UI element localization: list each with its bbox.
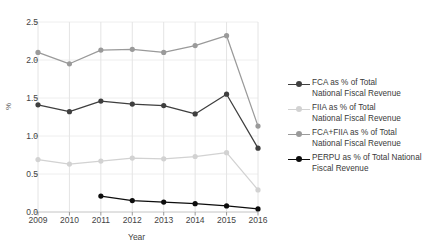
legend-marker-icon	[288, 103, 310, 116]
x-tick-label: 2014	[186, 215, 205, 225]
y-axis-tick-labels: 0.00.51.01.52.02.5	[14, 0, 38, 248]
y-tick-label: 0.5	[26, 169, 38, 179]
chart-figure: % 0.00.51.01.52.02.5 2009201020112012201…	[0, 0, 442, 248]
series-data-point	[67, 162, 72, 167]
series-data-point	[98, 48, 103, 53]
series-data-point	[161, 156, 166, 161]
series-data-point	[193, 201, 198, 206]
series-data-point	[67, 61, 72, 66]
series-data-point	[224, 203, 229, 208]
x-tick-label: 2009	[29, 215, 48, 225]
legend-item-label: FCA+FIIA as % of Total National Fiscal R…	[312, 128, 401, 149]
series-data-point	[130, 155, 135, 160]
legend-dot-icon	[296, 106, 302, 112]
series-data-point	[161, 50, 166, 55]
legend-item[interactable]: FCA+FIIA as % of Total National Fiscal R…	[288, 128, 440, 149]
series-data-point	[255, 187, 260, 192]
legend-item-label: PERPU as % of Total National Fiscal Reve…	[312, 153, 422, 174]
legend-item[interactable]: FCA as % of Total National Fiscal Revenu…	[288, 78, 440, 99]
x-tick-label: 2016	[249, 215, 268, 225]
series-data-point	[255, 146, 260, 151]
y-axis-label: %	[4, 103, 13, 110]
x-tick-label: 2010	[60, 215, 79, 225]
series-data-point	[98, 158, 103, 163]
series-data-point	[130, 47, 135, 52]
series-data-point	[67, 109, 72, 114]
series-data-point	[193, 43, 198, 48]
y-tick-label: 2.5	[26, 17, 38, 27]
legend-marker-icon	[288, 78, 310, 91]
series-data-point	[161, 103, 166, 108]
x-axis-label: Year	[128, 232, 145, 242]
y-tick-label: 1.0	[26, 131, 38, 141]
x-tick-label: 2015	[217, 215, 236, 225]
y-tick-label: 1.5	[26, 93, 38, 103]
series-data-point	[130, 198, 135, 203]
series-data-point	[161, 200, 166, 205]
legend-marker-icon	[288, 153, 310, 166]
legend-dot-icon	[296, 131, 302, 137]
series-data-point	[224, 33, 229, 38]
x-tick-label: 2011	[92, 215, 110, 225]
chart-legend: FCA as % of Total National Fiscal Revenu…	[288, 78, 440, 178]
series-data-point	[193, 154, 198, 159]
legend-item-label: FCA as % of Total National Fiscal Revenu…	[312, 78, 401, 99]
legend-dot-icon	[296, 81, 302, 87]
series-data-point	[255, 124, 260, 129]
x-tick-label: 2012	[123, 215, 142, 225]
series-line	[101, 196, 258, 209]
legend-item[interactable]: PERPU as % of Total National Fiscal Reve…	[288, 153, 440, 174]
series-line	[38, 94, 258, 148]
legend-marker-icon	[288, 128, 310, 141]
series-data-point	[255, 206, 260, 211]
x-tick-label: 2013	[154, 215, 173, 225]
series-data-point	[224, 150, 229, 155]
legend-item[interactable]: FIIA as % of Total National Fiscal Reven…	[288, 103, 440, 124]
legend-item-label: FIIA as % of Total National Fiscal Reven…	[312, 103, 401, 124]
y-tick-label: 2.0	[26, 55, 38, 65]
legend-dot-icon	[296, 156, 302, 162]
series-line	[38, 153, 258, 190]
series-data-point	[98, 193, 103, 198]
series-data-point	[224, 92, 229, 97]
series-data-point	[130, 101, 135, 106]
series-data-point	[98, 98, 103, 103]
series-data-point	[193, 111, 198, 116]
